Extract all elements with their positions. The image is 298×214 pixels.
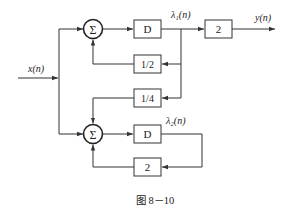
state1-label: λ₁(n) <box>170 9 191 21</box>
gain-block-quarter: 1/4 <box>134 89 161 107</box>
block-diagram: x(n) Σ D λ₁(n) 2 y(n) 1/2 1/4 <box>0 0 298 214</box>
gain-block-half: 1/2 <box>134 55 161 73</box>
half-to-sum-top <box>93 40 134 65</box>
state2-label: λ₂(n) <box>165 115 186 127</box>
input-label: x(n) <box>27 63 45 75</box>
gain-bottom-label: 2 <box>145 161 151 173</box>
gain-output-label: 2 <box>216 23 222 35</box>
gain-block-output: 2 <box>205 20 232 38</box>
gain-quarter-label: 1/4 <box>141 93 154 104</box>
gain-bottom-to-sum-bottom <box>93 145 134 168</box>
gain-half-label: 1/2 <box>141 59 154 70</box>
delay-bottom-label: D <box>144 128 152 140</box>
gain-block-bottom: 2 <box>134 158 161 176</box>
sum-node-bottom: Σ <box>84 125 103 144</box>
figure-caption: 图 8－10 <box>136 195 174 206</box>
state2-feedback <box>161 134 202 167</box>
delay-block-bottom: D <box>134 125 161 143</box>
quarter-to-sum-bottom <box>93 98 134 124</box>
delay-block-top: D <box>134 20 161 38</box>
sigma-icon: Σ <box>90 23 97 37</box>
output-label: y(n) <box>254 12 272 24</box>
sum-node-top: Σ <box>84 20 103 39</box>
delay-top-label: D <box>144 23 152 35</box>
sigma-icon: Σ <box>90 128 97 142</box>
